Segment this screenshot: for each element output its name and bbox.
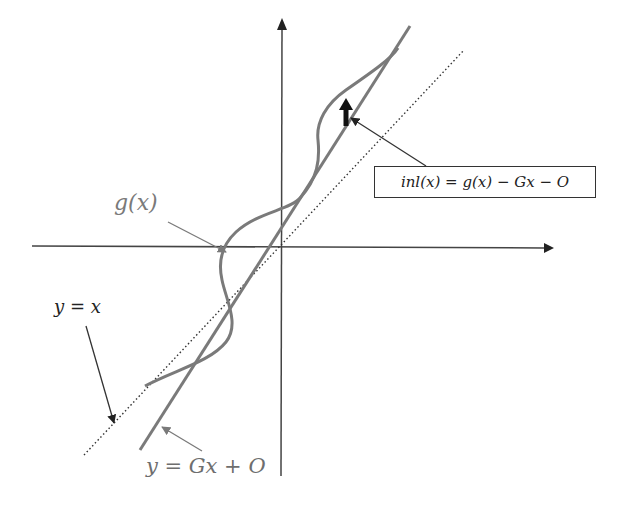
x-axis — [32, 246, 544, 248]
fit-line-label: y = Gx + O — [146, 454, 266, 478]
g-curve — [145, 48, 398, 386]
ideal-line — [84, 50, 464, 455]
diagram-canvas — [0, 0, 622, 511]
y-axis-arrow-icon — [277, 18, 287, 30]
x-axis-arrow-icon — [544, 243, 554, 253]
fit-line — [140, 26, 410, 450]
inl-formula-box: inl(x) = g(x) − Gx − O — [374, 166, 596, 198]
g-curve-label: g(x) — [114, 190, 158, 215]
yx-leader — [86, 326, 114, 423]
inl-leader — [351, 118, 426, 166]
inl-arrow-head-icon — [339, 98, 353, 110]
g-leader — [168, 222, 226, 252]
y-axis — [281, 28, 282, 476]
inl-formula-text: inl(x) = g(x) − Gx − O — [401, 173, 569, 191]
gxo-leader — [162, 427, 202, 451]
ideal-line-label: y = x — [54, 296, 101, 317]
